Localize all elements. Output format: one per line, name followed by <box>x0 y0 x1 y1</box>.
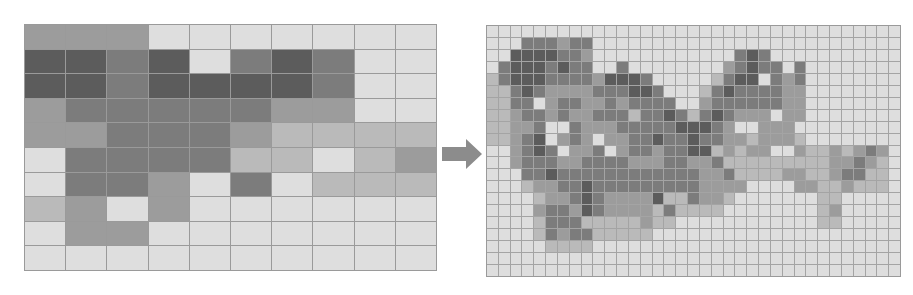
grid-cell <box>877 229 888 240</box>
grid-cell <box>842 122 853 133</box>
grid-cell <box>558 62 569 73</box>
grid-cell <box>487 86 498 97</box>
grid-cell <box>499 134 510 145</box>
grid-cell <box>759 205 770 216</box>
grid-cell <box>747 38 758 49</box>
grid-cell <box>546 86 557 97</box>
grid-cell <box>605 169 616 180</box>
grid-cell <box>830 241 841 252</box>
grid-cell <box>641 169 652 180</box>
grid-cell <box>877 157 888 168</box>
grid-cell <box>641 265 652 276</box>
grid-cell <box>605 62 616 73</box>
grid-cell <box>231 173 271 197</box>
grid-cell <box>534 86 545 97</box>
grid-cell <box>688 74 699 85</box>
grid-cell <box>877 217 888 228</box>
grid-cell <box>396 173 436 197</box>
grid-cell <box>700 50 711 61</box>
grid-cell <box>795 181 806 192</box>
grid-cell <box>629 146 640 157</box>
grid-cell <box>735 253 746 264</box>
low-resolution-grid <box>24 24 437 271</box>
grid-cell <box>313 173 353 197</box>
grid-cell <box>842 110 853 121</box>
grid-cell <box>676 62 687 73</box>
grid-cell <box>854 50 865 61</box>
grid-cell <box>889 253 900 264</box>
grid-cell <box>66 50 106 74</box>
grid-cell <box>511 86 522 97</box>
grid-cell <box>546 50 557 61</box>
grid-cell <box>570 229 581 240</box>
grid-cell <box>806 110 817 121</box>
grid-cell <box>724 193 735 204</box>
grid-cell <box>759 122 770 133</box>
grid-cell <box>818 253 829 264</box>
grid-cell <box>676 74 687 85</box>
grid-cell <box>842 86 853 97</box>
grid-cell <box>783 229 794 240</box>
grid-cell <box>866 26 877 37</box>
grid-cell <box>570 146 581 157</box>
grid-cell <box>676 98 687 109</box>
grid-cell <box>593 134 604 145</box>
grid-cell <box>605 157 616 168</box>
grid-cell <box>25 99 65 123</box>
grid-cell <box>522 253 533 264</box>
grid-cell <box>783 205 794 216</box>
grid-cell <box>499 229 510 240</box>
grid-cell <box>830 62 841 73</box>
grid-cell <box>806 38 817 49</box>
grid-cell <box>487 157 498 168</box>
grid-cell <box>605 229 616 240</box>
grid-cell <box>107 173 147 197</box>
grid-cell <box>712 169 723 180</box>
grid-cell <box>759 98 770 109</box>
grid-cell <box>712 193 723 204</box>
grid-cell <box>866 122 877 133</box>
grid-cell <box>771 146 782 157</box>
grid-cell <box>546 217 557 228</box>
grid-cell <box>676 253 687 264</box>
grid-cell <box>570 265 581 276</box>
grid-cell <box>534 157 545 168</box>
grid-cell <box>499 38 510 49</box>
grid-cell <box>355 197 395 221</box>
grid-cell <box>641 26 652 37</box>
grid-cell <box>783 157 794 168</box>
grid-cell <box>582 217 593 228</box>
grid-cell <box>107 123 147 147</box>
grid-cell <box>759 157 770 168</box>
grid-cell <box>499 193 510 204</box>
grid-cell <box>688 229 699 240</box>
grid-cell <box>558 134 569 145</box>
grid-cell <box>795 74 806 85</box>
grid-cell <box>688 217 699 228</box>
grid-cell <box>877 26 888 37</box>
grid-cell <box>272 99 312 123</box>
grid-cell <box>107 222 147 246</box>
grid-cell <box>795 98 806 109</box>
grid-cell <box>735 265 746 276</box>
grid-cell <box>641 157 652 168</box>
grid-cell <box>190 222 230 246</box>
grid-cell <box>818 38 829 49</box>
grid-cell <box>877 134 888 145</box>
grid-cell <box>676 110 687 121</box>
grid-cell <box>747 193 758 204</box>
grid-cell <box>664 98 675 109</box>
grid-cell <box>355 99 395 123</box>
grid-cell <box>499 98 510 109</box>
grid-cell <box>866 181 877 192</box>
grid-cell <box>771 50 782 61</box>
grid-cell <box>688 169 699 180</box>
grid-cell <box>593 86 604 97</box>
grid-cell <box>534 169 545 180</box>
grid-cell <box>570 122 581 133</box>
grid-cell <box>582 38 593 49</box>
grid-cell <box>747 134 758 145</box>
grid-cell <box>653 98 664 109</box>
grid-cell <box>272 173 312 197</box>
grid-cell <box>582 98 593 109</box>
